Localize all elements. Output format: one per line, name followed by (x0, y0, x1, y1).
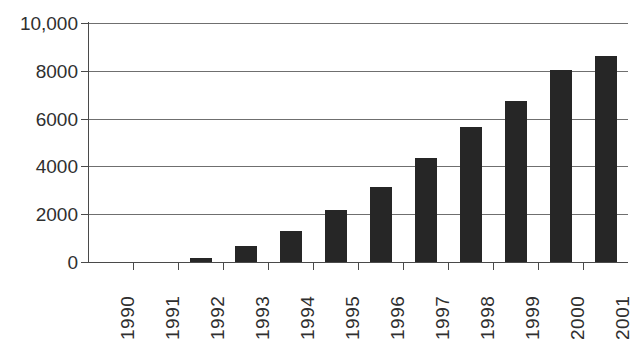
y-tick-4000 (81, 166, 88, 167)
y-axis-label-4000: 4000 (0, 157, 78, 176)
x-axis-label-1990: 1990 (118, 278, 138, 340)
bar-chart: 10,000 8000 6000 4000 2000 0 19901991199… (0, 0, 634, 345)
x-axis-label-1992: 1992 (208, 278, 228, 340)
y-tick-8000 (81, 71, 88, 72)
bar-1997 (415, 158, 437, 262)
y-tick-6000 (81, 119, 88, 120)
gridline-4000 (88, 166, 628, 167)
bar-1993 (235, 246, 257, 262)
x-tick-9 (493, 262, 494, 270)
y-axis-line (88, 22, 89, 263)
gridline-6000 (88, 119, 628, 120)
y-axis-label-2000: 2000 (0, 205, 78, 224)
plot-area (88, 23, 628, 262)
x-axis-label-1993: 1993 (253, 278, 273, 340)
x-tick-7 (403, 262, 404, 270)
bar-1994 (280, 231, 302, 262)
gridline-10000 (88, 23, 628, 24)
x-tick-8 (448, 262, 449, 270)
bar-2001 (595, 56, 617, 262)
x-axis-label-1995: 1995 (343, 278, 363, 340)
x-axis-label-1998: 1998 (478, 278, 498, 340)
y-axis-label-6000: 6000 (0, 110, 78, 129)
x-axis-label-1996: 1996 (388, 278, 408, 340)
x-tick-6 (358, 262, 359, 270)
y-axis-label-8000: 8000 (0, 62, 78, 81)
x-axis-label-1999: 1999 (523, 278, 543, 340)
x-axis-label-1997: 1997 (433, 278, 453, 340)
y-tick-2000 (81, 214, 88, 215)
bar-1995 (325, 210, 347, 262)
x-tick-5 (313, 262, 314, 270)
x-tick-2 (178, 262, 179, 270)
gridline-2000 (88, 214, 628, 215)
bar-1996 (370, 187, 392, 262)
x-tick-1 (133, 262, 134, 270)
x-axis-label-1994: 1994 (298, 278, 318, 340)
x-axis-label-2000: 2000 (568, 278, 588, 340)
y-tick-0 (81, 262, 88, 263)
bar-2000 (550, 70, 572, 262)
y-tick-10000 (81, 23, 88, 24)
x-axis-label-1991: 1991 (163, 278, 183, 340)
x-tick-3 (223, 262, 224, 270)
x-tick-4 (268, 262, 269, 270)
gridline-8000 (88, 71, 628, 72)
x-axis-label-2001: 2001 (613, 278, 633, 340)
bar-1998 (460, 127, 482, 262)
x-tick-11 (583, 262, 584, 270)
y-axis-label-10000: 10,000 (0, 14, 78, 33)
y-axis-label-0: 0 (0, 253, 78, 272)
x-tick-10 (538, 262, 539, 270)
bar-1999 (505, 101, 527, 262)
